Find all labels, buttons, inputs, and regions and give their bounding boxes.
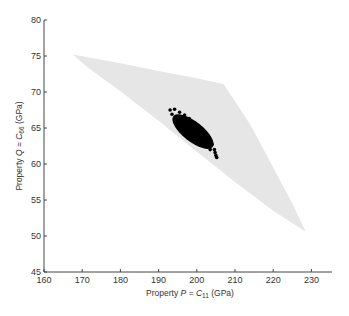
plot-area	[73, 55, 306, 232]
data-point	[173, 108, 177, 112]
data-point	[208, 148, 212, 152]
x-tick-label: 220	[266, 275, 281, 285]
data-point	[193, 121, 197, 125]
y-tick-label: 60	[31, 159, 41, 169]
data-point	[210, 143, 214, 147]
y-tick-label: 80	[31, 15, 41, 25]
data-point	[199, 141, 203, 145]
y-tick-label: 55	[31, 195, 41, 205]
x-ticks: 160170180190200210220230	[36, 269, 318, 285]
data-point	[207, 138, 211, 142]
y-axis-label: Property Q = C66 (GPa)	[14, 101, 25, 190]
data-point	[179, 123, 183, 127]
scatter-chart: 160170180190200210220230 455055606570758…	[0, 0, 349, 316]
x-tick-label: 180	[113, 275, 128, 285]
data-point	[215, 156, 219, 160]
data-point	[184, 127, 188, 131]
data-point	[168, 108, 172, 112]
x-tick-label: 210	[227, 275, 242, 285]
x-axis-label: Property P = C11 (GPa)	[146, 288, 234, 299]
y-tick-label: 50	[31, 231, 41, 241]
data-point	[203, 132, 207, 136]
x-tick-label: 230	[304, 275, 319, 285]
y-ticks: 4550556065707580	[31, 15, 47, 277]
data-point	[178, 110, 182, 114]
data-point	[213, 151, 217, 155]
x-tick-label: 200	[189, 275, 204, 285]
y-tick-label: 45	[31, 267, 41, 277]
y-tick-label: 75	[31, 51, 41, 61]
x-tick-label: 190	[151, 275, 166, 285]
data-point	[174, 118, 178, 122]
data-point	[187, 117, 191, 121]
x-tick-label: 170	[75, 275, 90, 285]
feasible-region	[73, 55, 306, 232]
data-point	[183, 113, 187, 117]
y-tick-label: 65	[31, 123, 41, 133]
data-point	[205, 144, 209, 148]
data-point	[198, 126, 202, 130]
data-point	[194, 136, 198, 140]
y-tick-label: 70	[31, 87, 41, 97]
data-point	[189, 132, 193, 136]
data-point	[170, 113, 174, 117]
